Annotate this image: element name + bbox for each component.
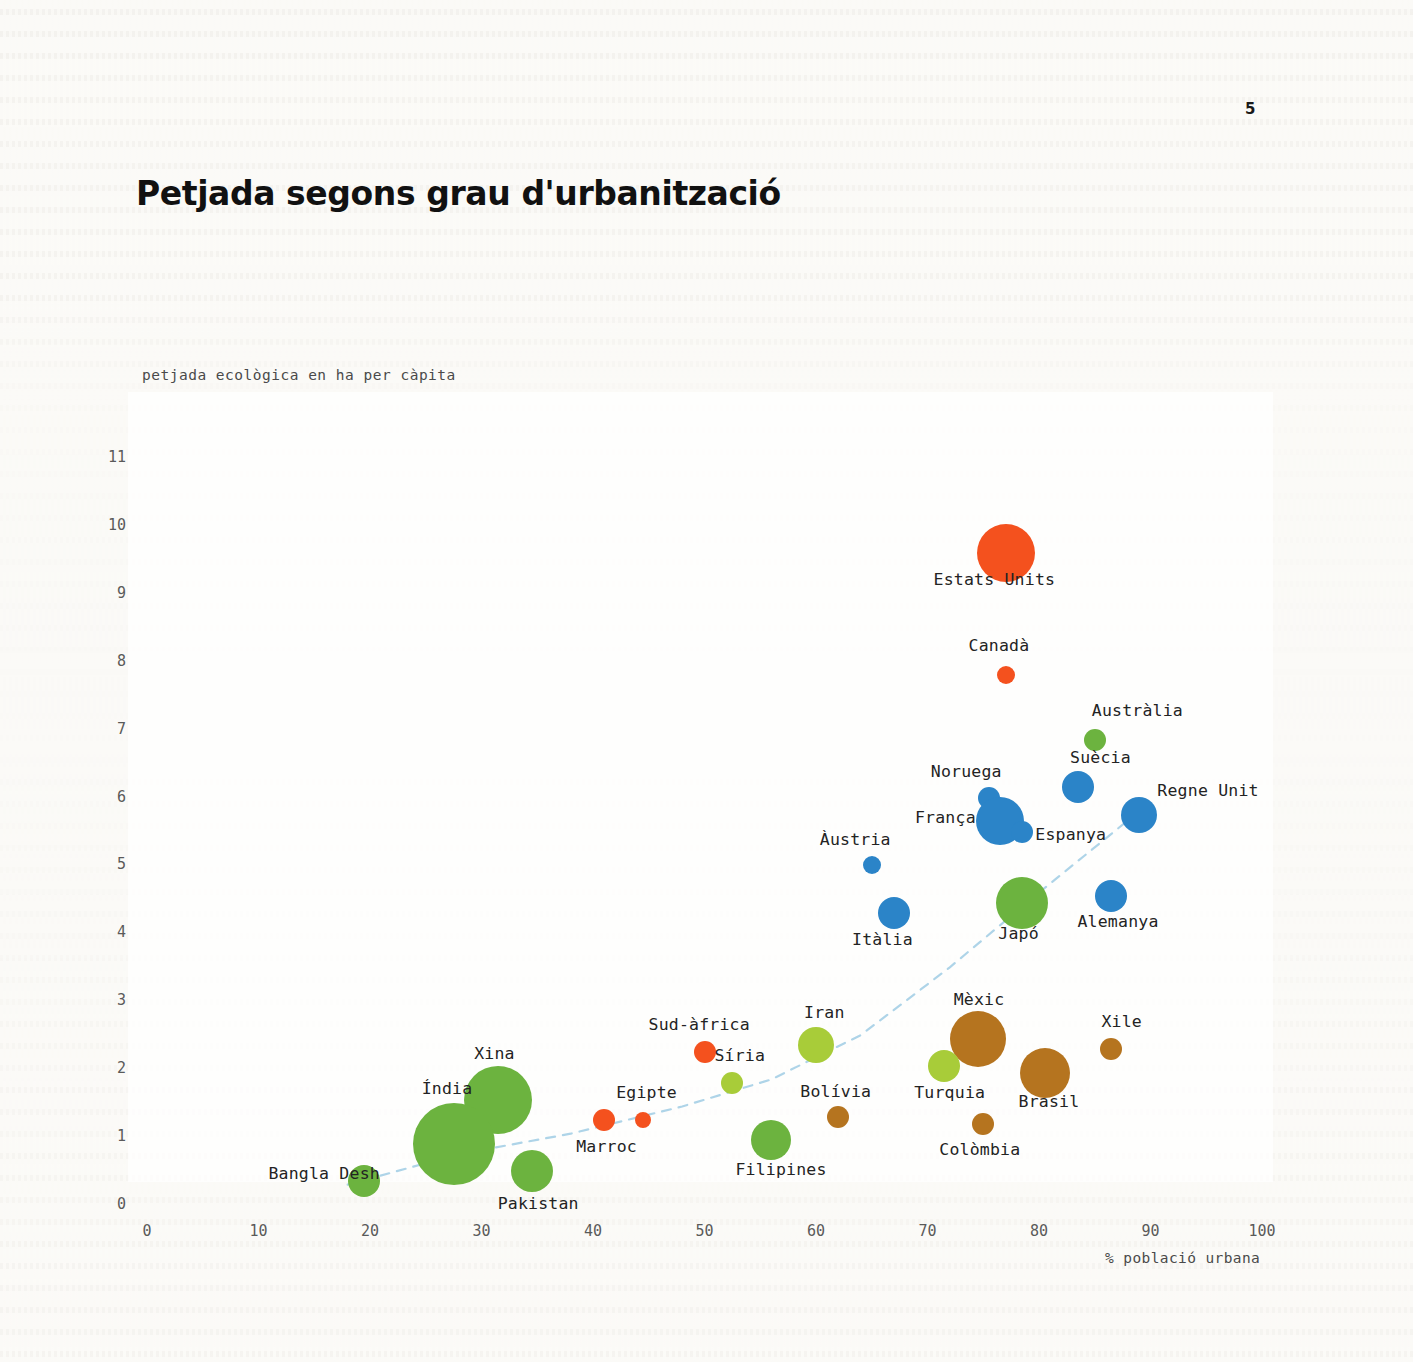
bubble-label-estats-units: Estats Units (934, 570, 1056, 589)
bubble-pakistan[interactable] (511, 1150, 553, 1192)
bubble-label-pakistan: Pakistan (498, 1194, 579, 1213)
bubble-regne-unit[interactable] (1121, 797, 1157, 833)
y-tick-10: 10 (86, 516, 126, 534)
y-tick-3: 3 (86, 991, 126, 1009)
bubble-sud-frica[interactable] (694, 1041, 716, 1063)
bubble-espanya[interactable] (1011, 821, 1033, 843)
bubble--ndia[interactable] (413, 1103, 495, 1185)
y-tick-8: 8 (86, 652, 126, 670)
bubble-filipines[interactable] (751, 1120, 791, 1160)
bubble-label-su-cia: Suècia (1070, 748, 1131, 767)
y-tick-11: 11 (86, 448, 126, 466)
bubble-label-sud-frica: Sud-àfrica (649, 1015, 750, 1034)
bubble-label-alemanya: Alemanya (1077, 912, 1158, 931)
y-tick-9: 9 (86, 584, 126, 602)
bubble-label--ustria: Àustria (820, 830, 891, 849)
bubble-label-turquia: Turquia (914, 1083, 985, 1102)
y-tick-0: 0 (86, 1195, 126, 1213)
bubble-label-xile: Xile (1101, 1012, 1142, 1031)
bubble-su-cia[interactable] (1062, 771, 1094, 803)
bubble-s-ria[interactable] (721, 1072, 743, 1094)
y-tick-6: 6 (86, 788, 126, 806)
bubble-label-marroc: Marroc (576, 1137, 637, 1156)
bubble-label-fran-a: França (915, 808, 976, 827)
bubble--ustria[interactable] (863, 856, 881, 874)
y-tick-2: 2 (86, 1059, 126, 1077)
bubble-label--ndia: Índia (422, 1079, 473, 1098)
bubble-xile[interactable] (1100, 1038, 1122, 1060)
bubble-label-regne-unit: Regne Unit (1157, 781, 1258, 800)
x-tick-40: 40 (563, 1222, 623, 1240)
bubble-label-brasil: Brasil (1019, 1092, 1080, 1111)
bubble-marroc[interactable] (593, 1109, 615, 1131)
bubble-label-bol-via: Bolívia (800, 1082, 871, 1101)
bubble-label-col-mbia: Colòmbia (939, 1140, 1020, 1159)
x-tick-60: 60 (786, 1222, 846, 1240)
bubble-label-noruega: Noruega (931, 762, 1002, 781)
bubble-iran[interactable] (798, 1027, 834, 1063)
scatter-plot: 01234567891011 0102030405060708090100 Es… (0, 0, 1413, 1362)
bubble-label-it-lia: Itàlia (852, 930, 913, 949)
x-tick-70: 70 (898, 1222, 958, 1240)
x-tick-20: 20 (340, 1222, 400, 1240)
bubble-alemanya[interactable] (1095, 880, 1127, 912)
x-tick-100: 100 (1232, 1222, 1292, 1240)
x-tick-50: 50 (675, 1222, 735, 1240)
x-tick-80: 80 (1009, 1222, 1069, 1240)
x-tick-10: 10 (229, 1222, 289, 1240)
y-tick-1: 1 (86, 1127, 126, 1145)
bubble-col-mbia[interactable] (972, 1113, 994, 1135)
trend-line (0, 0, 1413, 1362)
bubble-it-lia[interactable] (878, 897, 910, 929)
y-tick-5: 5 (86, 855, 126, 873)
bubble-label-s-ria: Síria (714, 1046, 765, 1065)
bubble-jap-[interactable] (996, 877, 1048, 929)
bubble-label-m-xic: Mèxic (954, 990, 1005, 1009)
bubble-egipte[interactable] (635, 1112, 651, 1128)
bubble-label-egipte: Egipte (616, 1083, 677, 1102)
bubble-canad-[interactable] (997, 666, 1015, 684)
x-tick-90: 90 (1121, 1222, 1181, 1240)
bubble-bol-via[interactable] (827, 1106, 849, 1128)
bubble-brasil[interactable] (1020, 1048, 1070, 1098)
bubble-label-iran: Iran (804, 1003, 845, 1022)
bubble-label-xina: Xina (474, 1044, 515, 1063)
bubble-turquia[interactable] (928, 1050, 960, 1082)
bubble-label-canad-: Canadà (969, 636, 1030, 655)
bubble-label-jap-: Japó (998, 924, 1039, 943)
bubble-label-austr-lia: Austràlia (1092, 701, 1183, 720)
bubble-label-bangla-desh: Bangla Desh (268, 1164, 379, 1183)
x-tick-0: 0 (117, 1222, 177, 1240)
x-tick-30: 30 (452, 1222, 512, 1240)
y-tick-4: 4 (86, 923, 126, 941)
bubble-label-filipines: Filipines (735, 1160, 826, 1179)
bubble-label-espanya: Espanya (1035, 825, 1106, 844)
y-tick-7: 7 (86, 720, 126, 738)
